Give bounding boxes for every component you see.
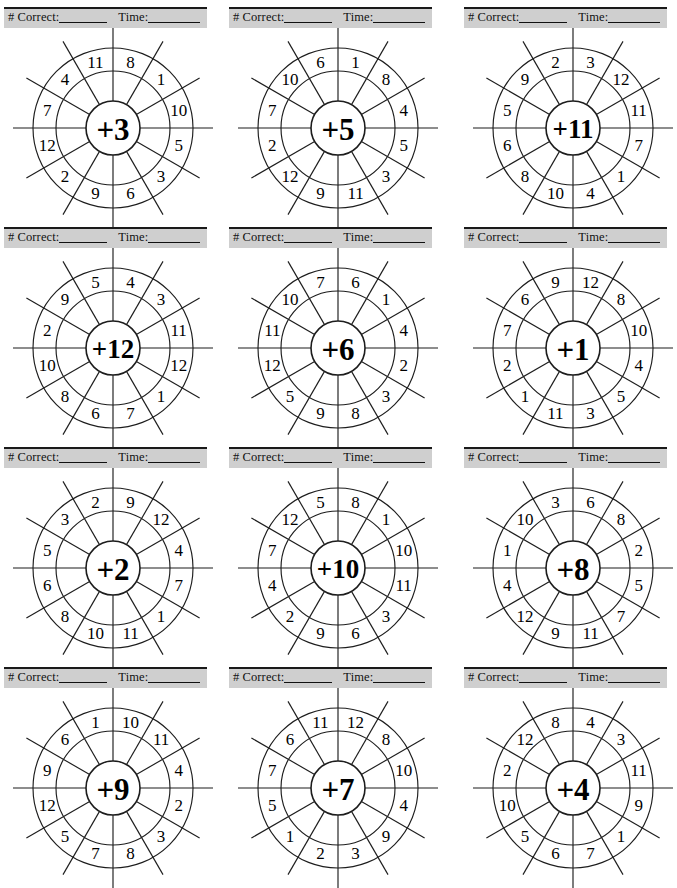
wheel-center-operand: +3 <box>96 112 129 147</box>
correct-label: # Correct: <box>8 670 59 684</box>
wheel-sector-number: 10 <box>516 510 533 529</box>
time-answer-blank[interactable] <box>148 242 200 243</box>
score-bar: # Correct:Time: <box>464 7 667 28</box>
wheel-sector-number: 6 <box>551 844 560 863</box>
wheel-spoke <box>361 142 424 179</box>
wheel-card: # Correct:Time:+10811011369247125 <box>225 440 446 660</box>
wheel-sector-number: 8 <box>61 387 70 406</box>
score-bar: # Correct:Time: <box>229 227 432 248</box>
wheel-sector-number: 4 <box>586 184 595 203</box>
wheel-spoke <box>596 362 659 399</box>
correct-answer-blank[interactable] <box>519 242 567 243</box>
time-answer-blank[interactable] <box>608 22 660 23</box>
correct-answer-blank[interactable] <box>519 462 567 463</box>
wheel-sector-number: 10 <box>281 70 298 89</box>
correct-label: # Correct: <box>233 670 284 684</box>
time-answer-blank[interactable] <box>373 242 425 243</box>
wheel-sector-number: 6 <box>586 493 595 512</box>
wheel-sector-number: 4 <box>174 541 183 560</box>
wheel-sector-number: 11 <box>630 101 646 120</box>
time-answer-blank[interactable] <box>148 682 200 683</box>
time-label: Time: <box>118 230 148 244</box>
correct-answer-blank[interactable] <box>284 22 332 23</box>
wheel-spoke <box>596 518 659 555</box>
time-answer-blank[interactable] <box>373 22 425 23</box>
wheel-sector-number: 7 <box>586 844 595 863</box>
wheel-sector-number: 3 <box>61 510 70 529</box>
wheel-sector-number: 9 <box>316 184 325 203</box>
wheel-sector-number: 12 <box>170 356 187 375</box>
correct-answer-blank[interactable] <box>519 682 567 683</box>
wheel-sector-number: 7 <box>174 576 183 595</box>
wheel-spoke <box>136 802 199 839</box>
wheel-sector-number: 7 <box>91 844 100 863</box>
wheel-sector-number: 8 <box>382 730 391 749</box>
correct-answer-blank[interactable] <box>59 682 107 683</box>
wheel-spoke <box>26 582 89 619</box>
time-answer-blank[interactable] <box>608 682 660 683</box>
wheel-sector-number: 1 <box>617 167 626 186</box>
wheel-center-operand: +9 <box>96 772 129 807</box>
wheel-spoke <box>136 362 199 399</box>
wheel-sector-number: 7 <box>617 607 626 626</box>
correct-answer-blank[interactable] <box>284 682 332 683</box>
wheel-sector-number: 9 <box>316 404 325 423</box>
wheel-sector-number: 11 <box>547 404 563 423</box>
wheel-sector-number: 5 <box>91 273 100 292</box>
score-bar: # Correct:Time: <box>229 667 432 688</box>
wheel-spoke <box>596 298 659 335</box>
time-answer-blank[interactable] <box>148 22 200 23</box>
wheel-sector-number: 10 <box>122 713 139 732</box>
score-bar: # Correct:Time: <box>464 667 667 688</box>
wheel-sector-number: 8 <box>351 493 360 512</box>
wheel-sector-number: 8 <box>351 404 360 423</box>
correct-answer-blank[interactable] <box>59 22 107 23</box>
wheel-sector-number: 5 <box>634 576 643 595</box>
wheel-sector-number: 12 <box>582 273 599 292</box>
wheel-sector-number: 8 <box>126 844 135 863</box>
wheel-sector-number: 9 <box>382 827 391 846</box>
wheel-sector-number: 10 <box>547 184 564 203</box>
correct-answer-blank[interactable] <box>519 22 567 23</box>
correct-answer-blank[interactable] <box>59 242 107 243</box>
time-answer-blank[interactable] <box>373 682 425 683</box>
wheel-sector-number: 10 <box>170 101 187 120</box>
wheel-sector-number: 3 <box>382 167 391 186</box>
correct-answer-blank[interactable] <box>284 242 332 243</box>
score-bar-content: # Correct:Time: <box>233 10 432 25</box>
correct-answer-blank[interactable] <box>59 462 107 463</box>
wheel-spoke <box>361 78 424 115</box>
score-bar-content: # Correct:Time: <box>468 230 667 245</box>
wheel-spoke <box>361 738 424 775</box>
wheel-sector-number: 10 <box>39 356 56 375</box>
addition-wheel: +8682571191241103 <box>473 468 673 668</box>
correct-label: # Correct: <box>8 230 59 244</box>
wheel-sector-number: 4 <box>399 796 408 815</box>
wheel-sector-number: 4 <box>126 273 135 292</box>
wheel-sector-number: 1 <box>617 827 626 846</box>
wheel-spoke <box>136 298 199 335</box>
time-answer-blank[interactable] <box>608 462 660 463</box>
addition-wheel: +11312117141086592 <box>473 28 673 228</box>
wheel-sector-number: 8 <box>382 70 391 89</box>
correct-answer-blank[interactable] <box>284 462 332 463</box>
time-answer-blank[interactable] <box>373 462 425 463</box>
wheel-spoke <box>486 298 549 335</box>
wheel-sector-number: 5 <box>316 493 325 512</box>
wheel-sector-number: 4 <box>399 101 408 120</box>
wheel-sector-number: 10 <box>630 321 647 340</box>
wheel-sector-number: 2 <box>399 356 408 375</box>
wheel-sector-number: 12 <box>613 70 630 89</box>
correct-label: # Correct: <box>233 10 284 24</box>
time-answer-blank[interactable] <box>608 242 660 243</box>
wheel-spoke <box>251 362 314 399</box>
time-answer-blank[interactable] <box>148 462 200 463</box>
wheel-sector-number: 6 <box>351 624 360 643</box>
wheel-card: # Correct:Time:+8682571191241103 <box>460 440 677 660</box>
wheel-sector-number: 7 <box>268 541 277 560</box>
wheel-sector-number: 2 <box>634 541 643 560</box>
wheel-sector-number: 6 <box>503 136 512 155</box>
wheel-sector-number: 5 <box>43 541 52 560</box>
wheel-spoke <box>361 298 424 335</box>
